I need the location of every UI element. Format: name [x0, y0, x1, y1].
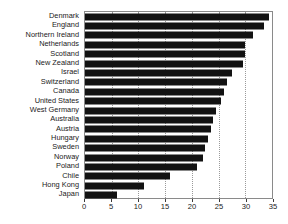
category-label: Israel	[61, 68, 79, 75]
bar	[85, 51, 245, 58]
bar	[85, 154, 203, 161]
bar	[85, 192, 117, 199]
bar	[85, 88, 224, 95]
category-label: Austria	[56, 125, 79, 132]
bar-row	[85, 50, 272, 59]
category-label-row: Sweden	[0, 142, 82, 151]
x-axis: 05101520253035	[84, 199, 273, 223]
bar-row	[85, 143, 272, 152]
x-tick-label: 30	[242, 203, 250, 211]
category-label: England	[52, 21, 79, 28]
category-label: Poland	[56, 162, 79, 169]
category-label-row: Hungary	[0, 133, 82, 142]
bar	[85, 173, 170, 180]
bar-row	[85, 106, 272, 115]
category-axis-labels: DenmarkEnglandNorthern IrelandNetherland…	[0, 11, 82, 199]
bar	[85, 116, 213, 123]
bar-row	[85, 87, 272, 96]
category-label: Norway	[54, 153, 79, 160]
category-label: Canada	[53, 87, 79, 94]
category-label: Sweden	[52, 143, 79, 150]
bar	[85, 163, 197, 170]
category-label-row: Norway	[0, 152, 82, 161]
bar	[85, 79, 227, 86]
category-label: United States	[35, 97, 79, 104]
bar	[85, 13, 269, 20]
bar	[85, 107, 216, 114]
x-tick-label: 25	[215, 203, 223, 211]
category-label: Australia	[50, 115, 79, 122]
category-label-row: England	[0, 20, 82, 29]
bar	[85, 70, 232, 77]
bar	[85, 60, 243, 67]
category-label: Northern Ireland	[26, 31, 79, 38]
category-label-row: West Germany	[0, 105, 82, 114]
bar	[85, 126, 211, 133]
x-tick-label: 5	[109, 203, 113, 211]
bar-chart: DenmarkEnglandNorthern IrelandNetherland…	[0, 0, 288, 224]
bar-row	[85, 31, 272, 40]
category-label-row: Netherlands	[0, 39, 82, 48]
category-label: Japan	[59, 190, 79, 197]
x-tick-label: 35	[269, 203, 277, 211]
plot-area	[84, 11, 273, 199]
category-label: Denmark	[49, 12, 79, 19]
category-label-row: Scotland	[0, 49, 82, 58]
bar-row	[85, 40, 272, 49]
bar-row	[85, 153, 272, 162]
category-label-row: Switzerland	[0, 77, 82, 86]
category-label-row: Canada	[0, 86, 82, 95]
bar-series	[85, 12, 272, 198]
bar-row	[85, 115, 272, 124]
x-tick-label: 10	[134, 203, 142, 211]
category-label-row: United States	[0, 96, 82, 105]
category-label-row: Northern Ireland	[0, 30, 82, 39]
category-label-row: Poland	[0, 161, 82, 170]
x-tick-label: 15	[161, 203, 169, 211]
bar-row	[85, 181, 272, 190]
x-tick-label: 20	[188, 203, 196, 211]
bar-row	[85, 12, 272, 21]
bar-row	[85, 97, 272, 106]
category-label-row: Chile	[0, 171, 82, 180]
bar-row	[85, 78, 272, 87]
category-label: Hungary	[51, 134, 79, 141]
category-label: Chile	[62, 172, 79, 179]
bar	[85, 182, 144, 189]
bar	[85, 41, 245, 48]
x-tick-label: 0	[82, 203, 86, 211]
category-label-row: Australia	[0, 114, 82, 123]
category-label-row: Hong Kong	[0, 180, 82, 189]
bar	[85, 145, 205, 152]
category-label: Switzerland	[41, 78, 79, 85]
bar	[85, 32, 253, 39]
category-label: Hong Kong	[42, 181, 79, 188]
category-label-row: New Zealand	[0, 58, 82, 67]
bar-row	[85, 162, 272, 171]
category-label: New Zealand	[35, 59, 79, 66]
bar	[85, 23, 264, 30]
bar-row	[85, 21, 272, 30]
category-label-row: Austria	[0, 124, 82, 133]
category-label-row: Denmark	[0, 11, 82, 20]
category-label: Netherlands	[39, 40, 79, 47]
category-label: West Germany	[30, 106, 79, 113]
bar-row	[85, 59, 272, 68]
bar	[85, 135, 208, 142]
bar	[85, 98, 221, 105]
bar-row	[85, 134, 272, 143]
category-label: Scotland	[50, 50, 79, 57]
category-label-row: Israel	[0, 67, 82, 76]
bar-row	[85, 172, 272, 181]
bar-row	[85, 125, 272, 134]
category-label-row: Japan	[0, 189, 82, 198]
bar-row	[85, 68, 272, 77]
